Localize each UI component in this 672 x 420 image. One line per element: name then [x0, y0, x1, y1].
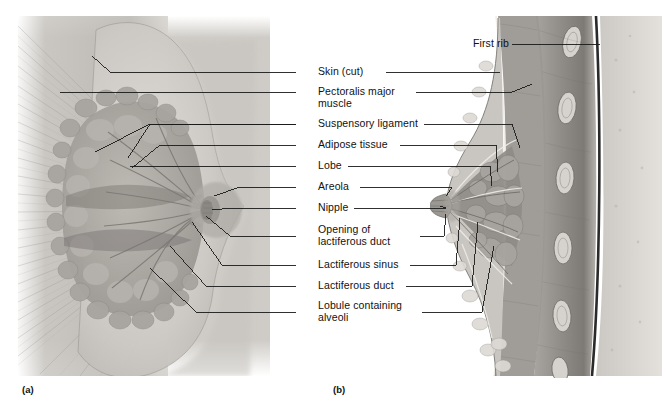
label-pectoralis-major-line2: muscle	[318, 98, 352, 110]
panel-label-b: (b)	[333, 384, 345, 395]
panel-b-artwork	[430, 16, 662, 384]
label-areola-line1: Areola	[318, 181, 349, 193]
label-pectoralis-major-line1: Pectoralis major	[318, 86, 395, 98]
label-opening-lactiferous-duct-line1: Opening of	[318, 224, 370, 236]
label-lactiferous-sinus-line1: Lactiferous sinus	[318, 259, 399, 271]
label-lobe-line1: Lobe	[318, 160, 342, 172]
label-suspensory-ligament-line1: Suspensory ligament	[318, 118, 418, 130]
label-adipose-tissue-line1: Adipose tissue	[318, 139, 388, 151]
panel-a-artwork	[18, 16, 270, 378]
label-lobule-containing-alveoli-line1: Lobule containing	[318, 300, 402, 312]
label-opening-lactiferous-duct-line2: lactiferous duct	[318, 236, 390, 248]
label-nipple-line1: Nipple	[318, 202, 348, 214]
label-lactiferous-duct-line1: Lactiferous duct	[318, 280, 394, 292]
label-skin-cut-line1: Skin (cut)	[318, 66, 363, 78]
panel-label-a: (a)	[22, 384, 34, 395]
figure-canvas: Skin (cut) Pectoralis major muscle Suspe…	[0, 0, 672, 420]
label-first-rib: First rib	[473, 38, 509, 50]
label-lobule-containing-alveoli-line2: alveoli	[318, 312, 348, 324]
